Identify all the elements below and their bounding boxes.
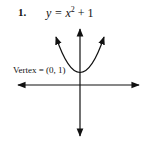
vertex-label: Vertex = (0, 1) [13, 65, 66, 75]
